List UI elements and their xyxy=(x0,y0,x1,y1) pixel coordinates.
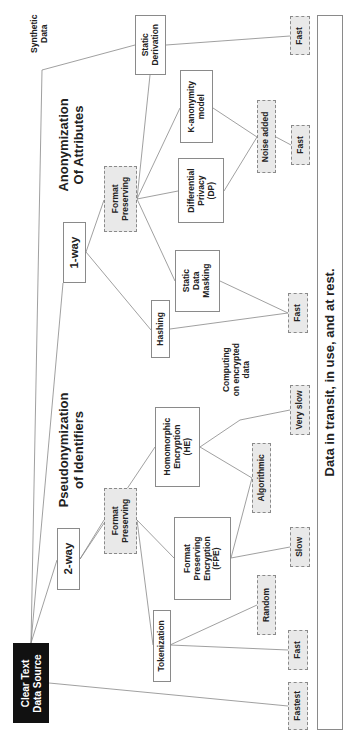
noise-added-label: Noise added xyxy=(262,111,272,162)
title-pseudonymization: Pseudonymizationof Identifiers xyxy=(54,380,90,520)
pseudo-title-line2: of Identifiers xyxy=(72,393,87,508)
computing-line3: data xyxy=(242,343,252,396)
fp1-line2: Preserving xyxy=(121,177,131,221)
he-line3: (HE) xyxy=(182,418,192,476)
tokenization-label: Tokenization xyxy=(157,620,167,671)
algorithmic-label: Algorithmic xyxy=(257,454,267,501)
anon-title-line2: Of Attributes xyxy=(72,98,87,191)
fast-token-label: Fast xyxy=(293,641,303,658)
attr-fast-noise: Fast xyxy=(291,125,310,165)
synthetic-line2: Data xyxy=(40,15,50,53)
attr-random: Random xyxy=(257,575,276,635)
attr-fast-tokenization: Fast xyxy=(288,630,308,670)
format-preserving-2way: FormatPreserving xyxy=(104,488,137,554)
data-states-bar: Data in transit, in use, and at rest. xyxy=(317,15,343,730)
fpe-line4: (FPE) xyxy=(212,536,222,580)
attr-noise-added: Noise added xyxy=(257,100,276,173)
source-line1: Clear Text xyxy=(20,654,32,712)
format-preserving-1way: FormatPreserving xyxy=(104,166,137,232)
very-slow-label: Very slow xyxy=(295,390,305,429)
fp2-line1: Format xyxy=(111,499,121,543)
computing-annotation: Computingon encrypteddata xyxy=(218,328,256,412)
static-data-masking-box: StaticDataMasking xyxy=(175,250,220,312)
attr-fast-derivation: Fast xyxy=(290,16,310,55)
kanon-line2: model xyxy=(197,81,207,132)
two-way-box: 2-way xyxy=(57,528,80,590)
synthetic-data-label: SyntheticData xyxy=(26,4,54,64)
he-line1: Homomorphic xyxy=(163,418,173,476)
he-line2: Encryption xyxy=(173,418,183,476)
random-label: Random xyxy=(262,588,272,622)
fpe-box: FormatPreservingEncryption(FPE) xyxy=(174,517,231,600)
dp-line2: Privacy xyxy=(196,168,206,212)
attr-fast-hashing-masking: Fast xyxy=(288,293,308,333)
data-states-label: Data in transit, in use, and at rest. xyxy=(323,268,338,476)
one-way-box: 1-way xyxy=(63,222,86,283)
clear-text-data-source: Clear TextData Source xyxy=(13,643,49,723)
fast-mid-label: Fast xyxy=(293,304,303,321)
title-anonymization: AnonymizationOf Attributes xyxy=(54,85,90,205)
one-way-label: 1-way xyxy=(68,237,81,269)
slow-label: Slow xyxy=(295,537,305,557)
sdm-line3: Masking xyxy=(202,264,212,298)
differential-privacy-box: DifferentialPrivacy(DP) xyxy=(178,158,224,223)
attr-slow: Slow xyxy=(290,527,310,567)
attr-fastest: Fastest xyxy=(288,682,308,730)
he-box: HomomorphicEncryption(HE) xyxy=(155,407,200,487)
dp-line3: (DP) xyxy=(206,168,216,212)
source-line2: Data Source xyxy=(31,654,43,712)
attr-algorithmic: Algorithmic xyxy=(252,443,271,513)
pseudo-title-line1: Pseudonymization xyxy=(57,393,72,508)
attr-very-slow: Very slow xyxy=(290,385,310,435)
hashing-label: Hashing xyxy=(156,312,166,346)
tokenization-box: Tokenization xyxy=(153,610,171,682)
fp1-line1: Format xyxy=(111,177,121,221)
k-anonymity-box: K-anonymitymodel xyxy=(180,70,213,143)
fastest-label: Fastest xyxy=(293,691,303,721)
hashing-box: Hashing xyxy=(151,300,170,358)
two-way-label: 2-way xyxy=(62,543,75,575)
sd-line2: Derivation xyxy=(151,24,161,66)
fast-derivation-label: Fast xyxy=(295,27,305,44)
fp2-line2: Preserving xyxy=(121,499,131,543)
fast-noise-label: Fast xyxy=(296,136,306,153)
static-derivation-box: StaticDerivation xyxy=(135,15,166,75)
